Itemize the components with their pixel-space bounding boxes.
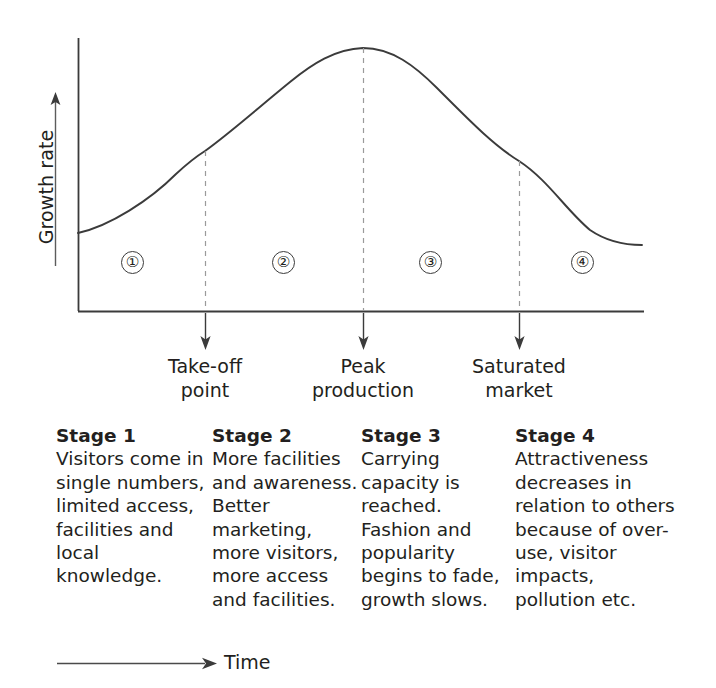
stage-1-title: Stage 1 bbox=[56, 424, 208, 447]
marker-label-peak-production: Peak production bbox=[278, 354, 448, 402]
growth-curve bbox=[78, 48, 642, 245]
stage-column-4: Stage 4 Attractiveness decreases in rela… bbox=[515, 424, 680, 611]
marker-label-take-off-point: Take-off point bbox=[120, 354, 290, 402]
time-axis bbox=[0, 640, 716, 688]
stage-number-3: ③ bbox=[419, 251, 442, 274]
stage-column-1: Stage 1 Visitors come in single numbers,… bbox=[56, 424, 208, 588]
stage-1-body: Visitors come in single numbers, limited… bbox=[56, 447, 208, 587]
stage-2-body: More facilities and awareness. Better ma… bbox=[212, 447, 360, 611]
marker-label-saturated-market: Saturated market bbox=[434, 354, 604, 402]
stage-number-1: ① bbox=[121, 251, 144, 274]
time-arrow bbox=[57, 658, 217, 669]
marker-arrow-take-off bbox=[200, 313, 210, 350]
x-axis-label: Time bbox=[224, 651, 271, 673]
stage-number-4: ④ bbox=[571, 251, 594, 274]
stage-column-3: Stage 3 Carrying capacity is reached. Fa… bbox=[361, 424, 513, 611]
stage-number-2: ② bbox=[272, 251, 295, 274]
tourist-life-cycle-diagram: Growth rate ① ② ③ ④ Take-off point Peak … bbox=[0, 0, 716, 688]
stage-2-title: Stage 2 bbox=[212, 424, 360, 447]
stage-column-2: Stage 2 More facilities and awareness. B… bbox=[212, 424, 360, 611]
stage-3-title: Stage 3 bbox=[361, 424, 513, 447]
stage-4-body: Attractiveness decreases in relation to … bbox=[515, 447, 680, 611]
stage-4-title: Stage 4 bbox=[515, 424, 680, 447]
stage-descriptions: Stage 1 Visitors come in single numbers,… bbox=[0, 424, 716, 624]
stage-3-body: Carrying capacity is reached. Fashion an… bbox=[361, 447, 513, 611]
marker-arrow-peak bbox=[358, 313, 368, 350]
y-axis-label: Growth rate bbox=[35, 77, 57, 297]
marker-arrow-saturation bbox=[514, 313, 524, 350]
